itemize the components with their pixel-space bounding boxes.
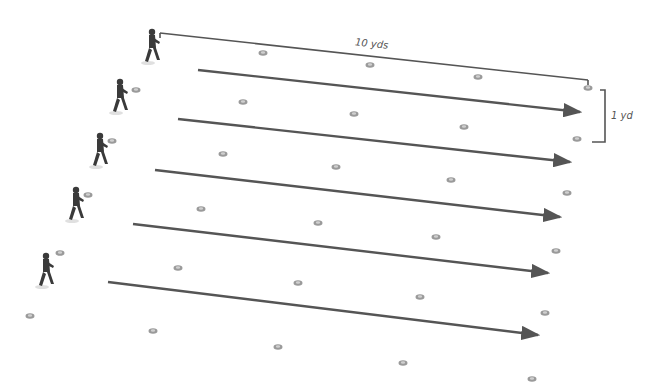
player-icon — [35, 253, 54, 289]
cone-icon — [219, 151, 228, 157]
cone-icon — [197, 206, 206, 212]
cone-icon — [563, 190, 572, 196]
cone-icon — [350, 111, 359, 117]
player-icon — [89, 133, 108, 169]
player-icon — [141, 29, 160, 65]
spacing-label: 1 yd — [611, 110, 633, 121]
cone-icon — [528, 376, 537, 382]
cone-icon — [552, 248, 561, 254]
cone-icon — [432, 234, 441, 240]
cone-icon — [332, 164, 341, 170]
player-icon — [65, 187, 84, 223]
player-icon — [109, 79, 128, 115]
cone-icon — [573, 136, 582, 142]
cone-icon — [399, 360, 408, 366]
cone-icon — [149, 328, 158, 334]
cone-icon — [56, 250, 65, 256]
drill-canvas — [0, 0, 650, 385]
run-arrows — [108, 70, 580, 335]
cone-icon — [84, 192, 93, 198]
cone-icon — [108, 138, 117, 144]
one-yard-bracket — [592, 90, 605, 142]
run-arrow-2 — [178, 119, 570, 162]
cone-icon — [584, 85, 593, 91]
cone-icon — [274, 344, 283, 350]
cone-icon — [314, 220, 323, 226]
cone-icon — [132, 87, 141, 93]
cone-icon — [541, 310, 550, 316]
cone-icon — [416, 294, 425, 300]
run-arrow-3 — [155, 170, 560, 217]
run-arrow-4 — [133, 224, 548, 273]
cone-icon — [26, 313, 35, 319]
run-arrow-1 — [198, 70, 580, 112]
players — [35, 29, 160, 289]
drill-diagram: 10 yds 1 yd — [0, 0, 650, 385]
cone-icon — [460, 124, 469, 130]
cone-icon — [366, 62, 375, 68]
cone-icon — [239, 99, 248, 105]
cone-icon — [294, 280, 303, 286]
bracket-line — [592, 90, 605, 142]
cone-icon — [174, 265, 183, 271]
cone-icon — [259, 50, 268, 56]
run-arrow-5 — [108, 282, 538, 335]
cone-icon — [474, 74, 483, 80]
cone-icon — [447, 177, 456, 183]
